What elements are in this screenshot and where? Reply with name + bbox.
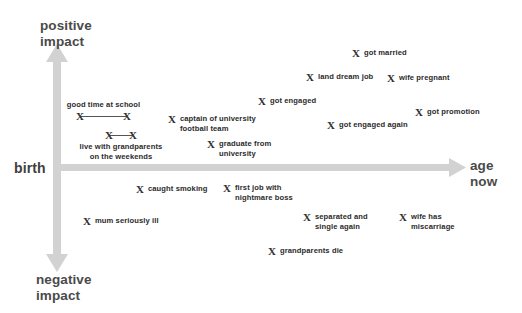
event-point: Xgraduate from university — [207, 138, 271, 159]
event-label: grandparents die — [280, 245, 343, 256]
event-span-connector — [80, 116, 127, 117]
event-marker-x-icon: X — [303, 212, 311, 222]
event-label: wife has miscarriage — [411, 211, 455, 232]
positive-impact-axis-label: positive impact — [40, 18, 92, 50]
event-marker-x-icon: X — [83, 216, 91, 226]
event-label: got engaged — [270, 95, 316, 106]
event-point: Xgot promotion — [415, 106, 480, 117]
event-marker-x-icon: X — [306, 72, 314, 82]
event-span: good time at schoolXX — [20, 100, 187, 122]
event-label: got promotion — [427, 106, 480, 117]
event-span-track: XX — [49, 130, 193, 141]
event-span-label: live with grandparents on the weekends — [49, 142, 193, 162]
event-span: XXlive with grandparents on the weekends — [49, 130, 193, 162]
event-point: Xwife pregnant — [387, 72, 450, 83]
event-label: land dream job — [318, 71, 373, 82]
event-label: graduate from university — [219, 138, 271, 159]
event-marker-x-icon: X — [399, 212, 407, 222]
age-now-axis-label: age now — [470, 158, 497, 190]
event-label: got engaged again — [339, 119, 408, 130]
event-marker-x-icon: X — [387, 73, 395, 83]
event-label: separated and single again — [315, 211, 368, 232]
event-span-label: good time at school — [20, 100, 187, 110]
event-marker-x-icon: X — [223, 183, 231, 193]
horizontal-axis-shaft — [57, 164, 455, 171]
event-point: Xgot engaged again — [327, 119, 408, 130]
event-point: Xgot engaged — [258, 95, 316, 106]
event-label: got married — [364, 47, 407, 58]
negative-axis-arrowhead — [46, 254, 68, 272]
event-point: Xfirst job with nightmare boss — [223, 182, 293, 203]
event-span-end-x-icon: X — [129, 130, 137, 141]
event-span-start-x-icon: X — [76, 111, 84, 122]
event-marker-x-icon: X — [136, 184, 144, 194]
event-point: Xwife has miscarriage — [399, 211, 455, 232]
event-point: Xland dream job — [306, 71, 373, 82]
age-axis-arrowhead — [449, 158, 466, 177]
event-span-track: XX — [20, 111, 187, 122]
event-label: mum seriously ill — [95, 215, 159, 226]
event-marker-x-icon: X — [327, 120, 335, 130]
event-marker-x-icon: X — [352, 48, 360, 58]
event-point: Xmum seriously ill — [83, 215, 159, 226]
event-point: Xgot married — [352, 47, 407, 58]
event-marker-x-icon: X — [268, 246, 276, 256]
life-impact-chart: positive impact negative impact age now … — [0, 0, 522, 313]
negative-impact-axis-label: negative impact — [36, 272, 92, 304]
event-label: wife pregnant — [399, 72, 450, 83]
event-point: Xcaught smoking — [136, 183, 208, 194]
event-marker-x-icon: X — [207, 139, 215, 149]
event-marker-x-icon: X — [258, 96, 266, 106]
event-span-end-x-icon: X — [123, 111, 131, 122]
event-marker-x-icon: X — [415, 107, 423, 117]
event-label: caught smoking — [148, 183, 208, 194]
event-point: Xseparated and single again — [303, 211, 368, 232]
event-label: first job with nightmare boss — [235, 182, 293, 203]
birth-origin-label: birth — [14, 160, 46, 177]
event-point: Xgrandparents die — [268, 245, 343, 256]
event-span-start-x-icon: X — [105, 130, 113, 141]
